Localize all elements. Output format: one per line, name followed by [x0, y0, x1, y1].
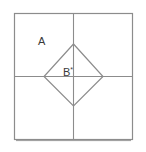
geometric-figure-container: A B*	[0, 0, 146, 152]
label-region-a: A	[38, 35, 46, 47]
label-region-b-letter: B	[63, 66, 70, 78]
label-region-b-superscript: *	[70, 66, 73, 73]
figure-canvas: A B*	[0, 0, 146, 152]
